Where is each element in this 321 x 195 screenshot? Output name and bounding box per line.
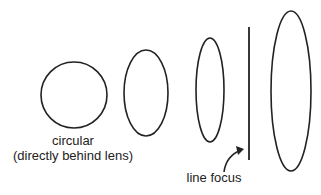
diagram-canvas: [0, 0, 321, 195]
arrowhead-icon: [236, 146, 244, 155]
circular-spot-shape: [41, 62, 107, 128]
line-focus-label: line focus: [182, 170, 246, 185]
circular-label-line1: circular: [3, 133, 143, 148]
ellipse-3-shape: [271, 11, 311, 171]
circular-label: circular (directly behind lens): [3, 133, 143, 163]
ellipse-1-shape: [124, 50, 168, 136]
ellipse-2-shape: [196, 38, 224, 142]
circular-label-line2: (directly behind lens): [3, 148, 143, 163]
